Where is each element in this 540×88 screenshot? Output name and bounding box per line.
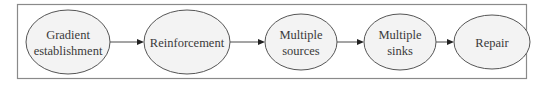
- node-label: Multiple: [378, 28, 422, 42]
- node-label: Reinforcement: [150, 36, 225, 50]
- node-ellipse: [364, 14, 436, 70]
- node-label: sinks: [387, 44, 413, 58]
- node-gradient: Gradientestablishment: [26, 10, 110, 74]
- flow-diagram: GradientestablishmentReinforcementMultip…: [0, 0, 540, 88]
- node-repair: Repair: [454, 15, 530, 69]
- node-label: Gradient: [46, 28, 90, 42]
- node-label: sources: [282, 44, 320, 58]
- node-label: Multiple: [279, 28, 323, 42]
- node-ellipse: [26, 10, 110, 74]
- node-label: establishment: [34, 44, 103, 58]
- node-ellipse: [265, 14, 337, 70]
- node-reinforcement: Reinforcement: [144, 10, 230, 74]
- node-sources: Multiplesources: [265, 14, 337, 70]
- node-sinks: Multiplesinks: [364, 14, 436, 70]
- node-label: Repair: [475, 36, 509, 50]
